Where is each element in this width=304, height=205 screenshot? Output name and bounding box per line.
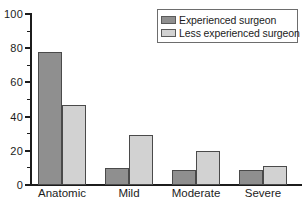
x-axis-label-moderate: Moderate	[172, 187, 221, 199]
y-tick-minor-30	[27, 133, 31, 134]
y-tick-major-40	[25, 116, 31, 118]
legend-item-experienced-surgeon[interactable]: Experienced surgeon	[161, 13, 293, 26]
y-tick-label-80: 80	[10, 42, 23, 54]
x-axis-category-labels: AnatomicMildModerateSevere	[26, 187, 302, 205]
x-axis-label-anatomic: Anatomic	[38, 187, 86, 199]
bar-anatomic-series-1	[62, 105, 86, 185]
bar-mild-series-1	[129, 135, 153, 185]
bar-severe-series-0	[239, 170, 263, 185]
legend-swatch-icon-series-1	[161, 29, 176, 37]
bar-chart: 100 80 60 40 20 0 AnatomicMildModerateSe…	[0, 0, 304, 205]
y-tick-label-60: 60	[10, 76, 23, 88]
bar-anatomic-series-0	[38, 52, 62, 185]
x-axis-label-mild: Mild	[118, 187, 139, 199]
y-tick-minor-50	[27, 99, 31, 100]
legend-label-series-1: Less experienced surgeon	[179, 27, 300, 39]
bar-moderate-series-0	[172, 170, 196, 185]
y-tick-minor-90	[27, 31, 31, 32]
y-tick-major-60	[25, 81, 31, 83]
y-tick-label-100: 100	[4, 8, 23, 20]
legend-item-less-experienced-surgeon[interactable]: Less experienced surgeon	[161, 26, 293, 39]
y-tick-minor-70	[27, 65, 31, 66]
legend-label-series-0: Experienced surgeon	[179, 14, 276, 26]
y-tick-label-40: 40	[10, 111, 23, 123]
bar-moderate-series-1	[196, 151, 220, 185]
y-tick-minor-10	[27, 167, 31, 168]
x-axis-label-severe: Severe	[245, 187, 281, 199]
y-tick-major-0	[25, 184, 31, 186]
bar-mild-series-0	[105, 168, 129, 185]
y-tick-label-0: 0	[17, 179, 23, 191]
y-tick-major-20	[25, 150, 31, 152]
bar-severe-series-1	[263, 166, 287, 185]
legend-swatch-icon-series-0	[161, 16, 176, 24]
legend: Experienced surgeon Less experienced sur…	[157, 9, 298, 43]
y-tick-major-80	[25, 47, 31, 49]
y-axis-labels: 100 80 60 40 20 0	[0, 0, 23, 205]
y-tick-major-100	[25, 13, 31, 15]
y-tick-label-20: 20	[10, 145, 23, 157]
